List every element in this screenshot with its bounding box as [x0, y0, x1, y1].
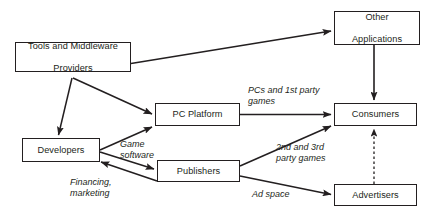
node-label: Consumers [350, 109, 401, 120]
node-other-applications[interactable]: OtherApplications [334, 11, 420, 45]
node-label: OtherApplications [348, 12, 406, 45]
node-developers[interactable]: Developers [22, 138, 100, 162]
node-consumers[interactable]: Consumers [334, 103, 417, 126]
node-label: Publishers [175, 166, 222, 177]
node-label: Advertisers [350, 190, 401, 201]
node-label: Tools and MiddlewareProviders [24, 41, 122, 74]
edge-tools-to-pc-platform [73, 78, 152, 114]
edge-label-ad-space: Ad space [252, 189, 312, 200]
node-label: PC Platform [170, 109, 224, 120]
node-tools-and-middleware-providers[interactable]: Tools and MiddlewareProviders [15, 42, 131, 72]
edge-label-financing-marketing: Financing, marketing [70, 177, 140, 198]
node-publishers[interactable]: Publishers [157, 160, 240, 182]
node-label: Developers [36, 145, 87, 156]
edge-tools-to-developers [59, 78, 73, 135]
node-advertisers[interactable]: Advertisers [334, 184, 417, 206]
node-pc-platform[interactable]: PC Platform [155, 103, 240, 126]
edge-label-pcs-and-1st-party-games: PCs and 1st party games [248, 85, 338, 106]
edge-label-game-software: Game software [120, 139, 180, 160]
diagram-canvas: Tools and MiddlewareProviders OtherAppli… [0, 0, 437, 217]
edge-label-2nd-and-3rd-party-games: 2nd and 3rd party games [276, 142, 356, 163]
edge-tools-to-other-apps [131, 31, 331, 64]
